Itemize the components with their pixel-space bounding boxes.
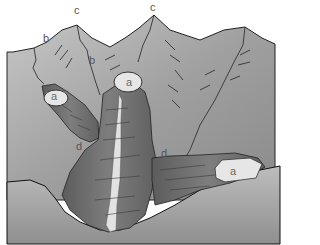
label-a-left: a xyxy=(51,91,57,102)
label-c-center: c xyxy=(150,2,156,13)
label-c-left: c xyxy=(74,5,80,16)
label-b-inner: b xyxy=(89,55,95,66)
label-d-left: d xyxy=(76,141,82,152)
label-d-right: d xyxy=(161,148,167,159)
label-b-left: b xyxy=(43,33,49,44)
label-a-right: a xyxy=(230,166,236,177)
label-a-center: a xyxy=(126,77,132,88)
cirque-a-right xyxy=(215,158,262,182)
